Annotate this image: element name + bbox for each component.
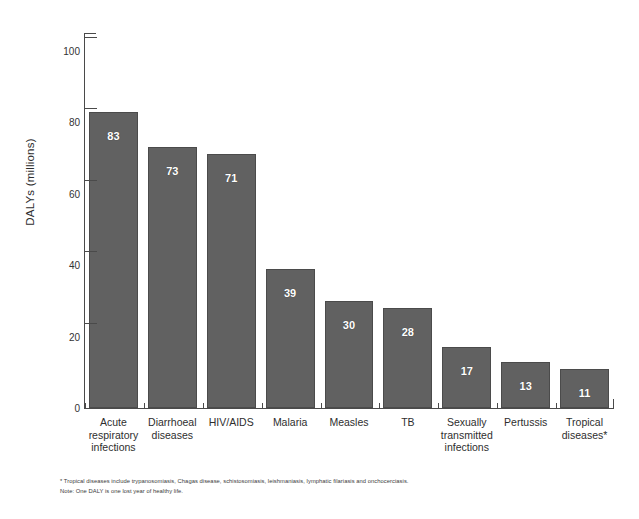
- y-axis-tick-label: 0: [50, 403, 80, 414]
- bar-series: 837371393028171311: [84, 33, 614, 408]
- x-axis-tick-mark: [321, 403, 322, 409]
- x-axis-category-labels: AcuterespiratoryinfectionsDiarrhoealdise…: [84, 416, 614, 472]
- y-axis-tick-label: 40: [50, 260, 80, 271]
- bar[interactable]: [207, 154, 256, 408]
- x-axis-category-label: Tropicaldiseases*: [543, 416, 626, 441]
- bar-value-label: 30: [325, 319, 374, 331]
- bar-value-label: 71: [207, 172, 256, 184]
- y-axis-tick-mark: [84, 180, 97, 181]
- y-axis-tick-mark: [84, 108, 97, 109]
- x-axis-category-label-line: diseases: [131, 429, 214, 442]
- bar-value-label: 39: [266, 287, 315, 299]
- x-axis-tick-mark: [497, 403, 498, 409]
- x-axis-tick-mark: [438, 403, 439, 409]
- y-axis-tick-label: 20: [50, 331, 80, 342]
- x-axis-tick-mark: [556, 403, 557, 409]
- y-axis-title: DALYs (millions): [24, 82, 36, 282]
- x-axis-tick-mark: [144, 403, 145, 409]
- bar-value-label: 28: [383, 326, 432, 338]
- x-axis-category-label-line: infections: [425, 441, 508, 454]
- chart-figure: DALYs (millions) 100806040200 8373713930…: [0, 0, 639, 519]
- x-axis-category-label-line: transmitted: [425, 429, 508, 442]
- x-axis-tick-mark: [262, 403, 263, 409]
- footnote-daly-note: Note: One DALY is one lost year of healt…: [60, 487, 620, 497]
- y-axis-tick-label: 100: [50, 45, 80, 56]
- y-axis-tick-label: 60: [50, 188, 80, 199]
- x-axis-category-label-line: infections: [72, 441, 155, 454]
- x-axis-tick-mark: [85, 403, 86, 409]
- bar[interactable]: [325, 301, 374, 408]
- bar-value-label: 17: [442, 365, 491, 377]
- x-axis-tick-mark: [379, 403, 380, 409]
- bar-value-label: 83: [89, 130, 138, 142]
- bar-value-label: 11: [560, 387, 609, 399]
- y-axis-tick-mark: [84, 323, 97, 324]
- x-axis-tick-mark: [203, 403, 204, 409]
- y-axis-tick-mark: [84, 37, 97, 38]
- y-axis-tick-label: 80: [50, 117, 80, 128]
- bar-value-label: 73: [148, 165, 197, 177]
- x-axis-line: [84, 408, 614, 409]
- bar[interactable]: [442, 347, 491, 408]
- bar[interactable]: [89, 112, 138, 408]
- bar[interactable]: [383, 308, 432, 408]
- x-axis-category-label-line: diseases*: [543, 429, 626, 442]
- y-axis-tick-mark: [84, 251, 97, 252]
- bar[interactable]: [148, 147, 197, 408]
- footnote-block: * Tropical diseases include trypanosomia…: [60, 477, 620, 496]
- x-axis-category-label-line: Tropical: [543, 416, 626, 429]
- bar-value-label: 13: [501, 380, 550, 392]
- footnote-tropical-diseases: * Tropical diseases include trypanosomia…: [60, 477, 620, 487]
